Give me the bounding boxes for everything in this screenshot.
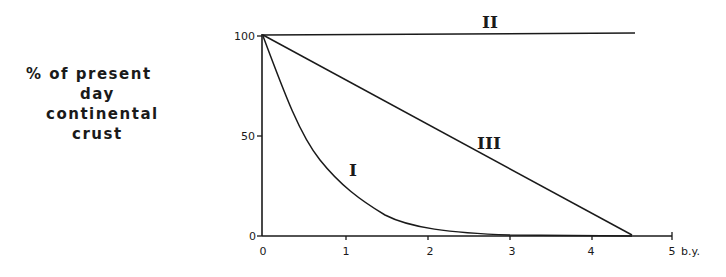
y-tick-50: 50 — [241, 130, 255, 143]
x-tick-1: 1 — [343, 245, 350, 258]
curve-II — [262, 33, 635, 35]
curve-III — [263, 35, 632, 235]
x-tick-0: 0 — [260, 245, 267, 258]
curve-II-label: II — [482, 12, 498, 32]
x-tick-5: 5 — [669, 245, 676, 258]
x-tick-4: 4 — [588, 245, 595, 258]
x-tick-3: 3 — [509, 245, 516, 258]
curve-III-label: III — [477, 133, 501, 153]
curve-I-label: I — [349, 160, 357, 180]
curve-I — [263, 36, 632, 236]
x-tick-2: 2 — [427, 245, 434, 258]
y-tick-0: 0 — [249, 230, 256, 243]
chart-plot: 100 50 0 0 1 2 3 4 5 b.y. II III I — [0, 0, 726, 277]
y-tick-100: 100 — [234, 30, 255, 43]
x-axis-unit: b.y. — [681, 245, 700, 258]
